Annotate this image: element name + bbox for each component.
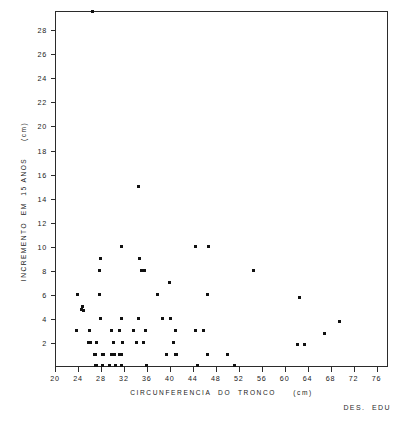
x-axis-tick: [377, 367, 378, 372]
x-axis-tick: [354, 367, 355, 372]
x-axis-tick: [331, 367, 332, 372]
y-axis-tick: [51, 199, 56, 200]
x-axis-tick: [78, 367, 79, 372]
y-axis-tick: [51, 247, 56, 248]
y-axis-tick: [51, 30, 56, 31]
y-axis-tick: [51, 175, 56, 176]
scatter-plot-figure: 246810121416182022242628 202428323640444…: [0, 0, 405, 425]
x-axis-tick-label: 76: [362, 374, 392, 383]
y-axis: 246810121416182022242628: [0, 0, 405, 425]
y-axis-tick: [51, 126, 56, 127]
x-axis-tick: [55, 367, 56, 372]
y-axis-tick: [51, 271, 56, 272]
y-axis-tick: [51, 102, 56, 103]
y-axis-tick: [51, 151, 56, 152]
x-axis-tick: [147, 367, 148, 372]
y-axis-tick-label: 28: [21, 26, 47, 35]
x-axis-tick: [124, 367, 125, 372]
y-axis-title: INCREMENTO EM 15 ANOS (cm): [20, 37, 27, 367]
y-axis-tick: [51, 319, 56, 320]
y-axis-tick: [51, 223, 56, 224]
x-axis-tick: [170, 367, 171, 372]
y-axis-tick: [51, 343, 56, 344]
credit-annotation: DES. EDU: [343, 404, 391, 411]
y-axis-tick: [51, 78, 56, 79]
x-axis-tick: [216, 367, 217, 372]
x-axis-tick: [101, 367, 102, 372]
y-axis-tick: [51, 295, 56, 296]
x-axis-tick: [285, 367, 286, 372]
x-axis-tick: [239, 367, 240, 372]
y-axis-tick: [51, 54, 56, 55]
x-axis-tick: [193, 367, 194, 372]
x-axis-title: CIRCUNFERENCIA DO TRONCO (cm): [55, 389, 388, 396]
x-axis-tick: [308, 367, 309, 372]
x-axis-tick: [262, 367, 263, 372]
